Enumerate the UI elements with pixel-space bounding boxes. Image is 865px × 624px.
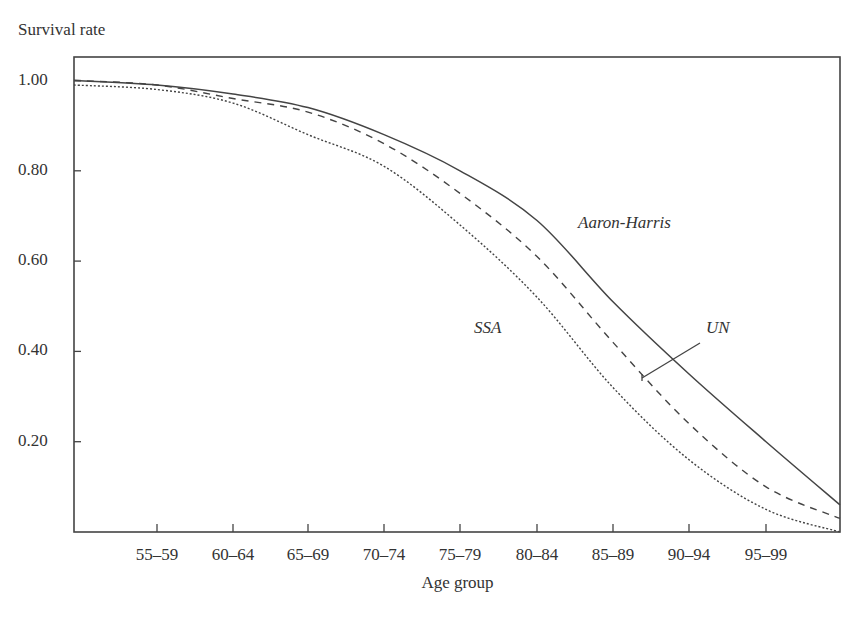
series-line-un (74, 81, 840, 519)
x-axis-title: Age group (0, 573, 865, 593)
y-tick-label: 0.20 (18, 431, 62, 451)
y-axis-title: Survival rate (18, 20, 105, 40)
x-tick-label: 80–84 (502, 545, 572, 565)
x-tick-label: 55–59 (122, 545, 192, 565)
y-axis-ticks (74, 81, 81, 442)
label-un: UN (706, 318, 730, 338)
label-ssa: SSA (474, 318, 501, 338)
x-axis-ticks (157, 524, 766, 532)
x-tick-label: 95–99 (731, 545, 801, 565)
series-lines (74, 81, 840, 533)
un-leader-line (642, 343, 700, 378)
x-tick-label: 90–94 (654, 545, 724, 565)
series-line-aaron-harris (74, 81, 840, 505)
label-aaron-harris: Aaron-Harris (578, 213, 671, 233)
y-tick-label: 0.60 (18, 250, 62, 270)
y-tick-label: 0.80 (18, 160, 62, 180)
y-tick-label: 0.40 (18, 340, 62, 360)
x-tick-label: 75–79 (425, 545, 495, 565)
x-tick-label: 85–89 (578, 545, 648, 565)
x-tick-label: 60–64 (198, 545, 268, 565)
survival-rate-chart (0, 0, 865, 624)
y-tick-label: 1.00 (18, 70, 62, 90)
x-tick-label: 70–74 (349, 545, 419, 565)
x-tick-label: 65–69 (273, 545, 343, 565)
plot-frame (74, 57, 840, 532)
series-line-ssa (74, 85, 840, 532)
